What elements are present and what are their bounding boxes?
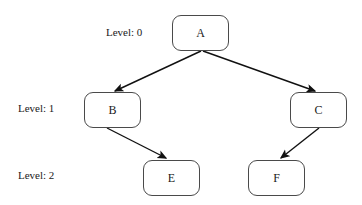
node-b[interactable]: B bbox=[84, 92, 141, 128]
level-label-1: Level: 1 bbox=[18, 103, 54, 114]
node-a[interactable]: A bbox=[172, 15, 229, 51]
level-label-2: Level: 2 bbox=[18, 170, 54, 181]
node-c[interactable]: C bbox=[290, 92, 347, 128]
level-label-0: Level: 0 bbox=[106, 27, 142, 38]
edge-b-to-e bbox=[107, 128, 166, 158]
node-e[interactable]: E bbox=[143, 160, 200, 196]
edge-a-to-c bbox=[203, 51, 315, 91]
node-f[interactable]: F bbox=[248, 160, 305, 196]
diagram-canvas: Level: 0 Level: 1 Level: 2 A B C E F bbox=[0, 0, 362, 205]
edge-c-to-f bbox=[281, 128, 319, 158]
edge-a-to-b bbox=[115, 51, 201, 91]
